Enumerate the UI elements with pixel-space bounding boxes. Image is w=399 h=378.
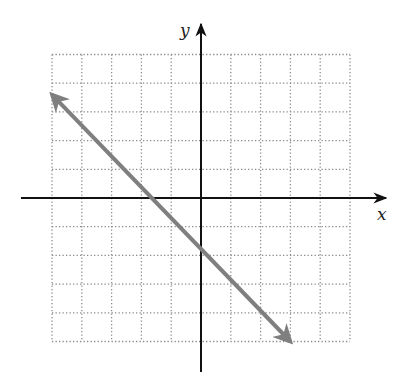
y-axis-label: y <box>179 20 190 40</box>
coordinate-plane: y x <box>0 0 399 378</box>
x-axis-label: x <box>377 204 387 224</box>
